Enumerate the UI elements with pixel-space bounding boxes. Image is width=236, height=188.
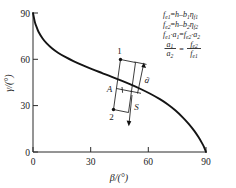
equation-line-4: a1 a2 = fe2 fe1 (165, 40, 202, 59)
vector-s-arrowhead (127, 121, 132, 127)
y-tick-label-30: 30 (21, 101, 31, 111)
point-A-label: A (106, 84, 113, 94)
eq4-den-left-sub: 2 (171, 53, 174, 59)
chart-svg: 90 60 30 0 0 30 60 90 β/(°) γ/(°) (0, 0, 236, 188)
svg-text:fe1: fe1 (190, 49, 198, 59)
annot-edge-top (121, 60, 136, 63)
vector-a-cap-top (135, 62, 147, 64)
y-axis-title: γ/(°) (3, 74, 15, 92)
y-tick-label-90: 90 (21, 9, 31, 19)
point-1-marker (119, 58, 122, 61)
annot-edge-bottom (114, 110, 129, 113)
svg-text:fe2=h–b2ηf2: fe2=h–b2ηf2 (163, 20, 198, 30)
x-axis-title: β/(°) (109, 172, 129, 184)
equation-line-3: fe1·a1=fe2·a2 (163, 30, 200, 40)
equation-line-1: fe1=h–b1ηf1 (163, 10, 198, 20)
svg-text:a2: a2 (167, 49, 174, 59)
x-tick-label-30: 30 (86, 157, 96, 167)
vector-a-cap-bottom (131, 91, 142, 93)
y-tick-label-0: 0 (25, 148, 30, 158)
annot-edge-left (114, 60, 121, 110)
x-ticks-group: 0 30 60 90 (31, 147, 211, 167)
eq2-rhs: h–b (175, 20, 187, 29)
y-tick-label-60: 60 (21, 55, 31, 65)
eq1-rhs: h–b (175, 10, 187, 19)
point-1-label: 1 (117, 46, 122, 56)
point-2-label: 2 (109, 112, 114, 122)
vector-a-label: ā (144, 75, 151, 86)
x-tick-label-60: 60 (144, 157, 154, 167)
eq1-eta-sub: f1 (194, 14, 199, 20)
point-2-marker (112, 108, 115, 111)
figure-container: 90 60 30 0 0 30 60 90 β/(°) γ/(°) (0, 0, 236, 188)
y-ticks-group: 90 60 30 0 (21, 9, 39, 158)
equations-block: fe1=h–b1ηf1 fe2=h–b2ηf2 fe1·a1=fe2·a2 a1 (163, 10, 201, 59)
annot-edge-middle (117, 89, 132, 92)
x-tick-label-0: 0 (31, 157, 36, 167)
eq4-equals: = (179, 45, 184, 54)
vector-s-label: S (134, 102, 139, 112)
eq4-den-right-sub: e1 (192, 53, 197, 59)
equation-line-2: fe2=h–b2ηf2 (163, 20, 198, 30)
svg-text:fe1·a1=fe2·a2: fe1·a1=fe2·a2 (163, 30, 200, 40)
annotation-group: 1 2 A ā S (106, 46, 151, 126)
eq2-eta-sub: f2 (194, 24, 199, 30)
svg-text:fe1=h–b1ηf1: fe1=h–b1ηf1 (163, 10, 198, 20)
x-tick-label-90: 90 (201, 157, 211, 167)
svg-text:fe2: fe2 (190, 40, 198, 50)
svg-text:a1: a1 (167, 40, 174, 50)
eq3-a2-sub: 2 (197, 34, 200, 40)
annot-tick-A (122, 87, 123, 93)
